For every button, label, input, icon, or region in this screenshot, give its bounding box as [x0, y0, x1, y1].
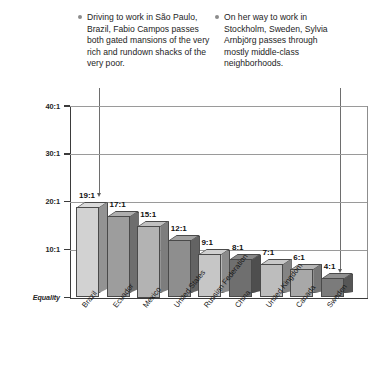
- annotation-callout-brazil: Driving to work in São Paulo, Brazil, Fa…: [78, 12, 210, 70]
- bar: [76, 207, 99, 298]
- bar-value-label: 17:1: [110, 200, 126, 209]
- bullet-dot-icon: [78, 15, 82, 19]
- bullet-dot-icon: [215, 15, 219, 19]
- y-axis-tick-label: 40:1: [10, 102, 60, 111]
- annotation-text: On her way to work in Stockholm, Sweden,…: [224, 12, 333, 70]
- bar-value-label: 9:1: [201, 238, 213, 247]
- y-axis-tick-label: 20:1: [10, 197, 60, 206]
- y-axis-tick: [64, 297, 70, 298]
- y-axis-tick-label: Equality: [10, 293, 60, 302]
- gridline: [70, 106, 367, 107]
- bar-value-label: 15:1: [140, 210, 156, 219]
- chart-figure: Driving to work in São Paulo, Brazil, Fa…: [0, 0, 386, 392]
- y-axis-tick: [64, 105, 70, 106]
- bar-value-label: 7:1: [263, 248, 275, 257]
- bar-value-label: 6:1: [293, 253, 305, 262]
- gridline: [70, 154, 367, 155]
- annotation-text: Driving to work in São Paulo, Brazil, Fa…: [87, 12, 210, 70]
- annotation-callout-sweden: On her way to work in Stockholm, Sweden,…: [215, 12, 333, 70]
- y-axis-tick-label: 10:1: [10, 245, 60, 254]
- bar-value-label: 12:1: [171, 224, 187, 233]
- bar-value-label: 4:1: [324, 262, 336, 271]
- plot-frame-right-edge: [367, 106, 368, 298]
- y-axis-tick: [64, 249, 70, 250]
- y-axis-tick: [64, 201, 70, 202]
- bar-front-face: [76, 207, 99, 298]
- y-axis-tick-label: 30:1: [10, 149, 60, 158]
- y-axis-tick: [64, 153, 70, 154]
- bar-value-label: 19:1: [79, 191, 95, 200]
